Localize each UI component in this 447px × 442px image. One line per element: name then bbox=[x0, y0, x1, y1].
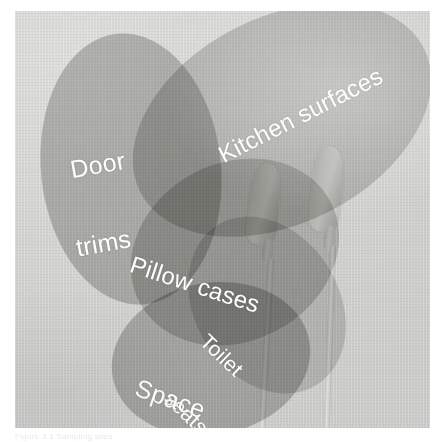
venn-ellipse-group bbox=[15, 11, 430, 428]
figure-container: Door trims Kitchen surfaces Pillow cases… bbox=[0, 0, 447, 442]
figure-caption: Figure 3.1 Sampling sites bbox=[15, 432, 430, 442]
photograph-plate: Door trims Kitchen surfaces Pillow cases… bbox=[15, 11, 430, 428]
